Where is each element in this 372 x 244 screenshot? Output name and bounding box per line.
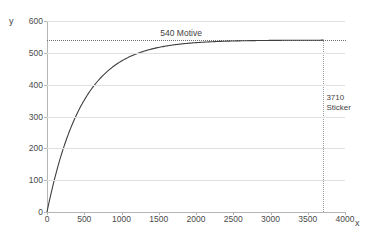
x-tickmark [271,212,272,215]
x-tickmark [47,212,48,215]
gridline [47,148,345,149]
x-tickmark [159,212,160,215]
gridline [47,53,345,54]
y-tickmark [44,148,47,149]
x-tickmark [122,212,123,215]
gridline [47,117,345,118]
x-tickmark [308,212,309,215]
gridline [47,180,345,181]
x-tickmark [196,212,197,215]
x-tickmark [84,212,85,215]
y-tickmark [44,180,47,181]
saturation-curve-path [47,40,323,212]
gridline [47,21,345,22]
x-tickmark [345,212,346,215]
chart-container: y x 0100200300400500600 0500100015002000… [0,0,372,244]
y-tickmark [44,53,47,54]
y-tickmark [44,85,47,86]
y-tickmark [44,117,47,118]
y-tickmark [44,21,47,22]
gridline [47,85,345,86]
curve-plot [0,0,372,244]
x-tickmark [233,212,234,215]
